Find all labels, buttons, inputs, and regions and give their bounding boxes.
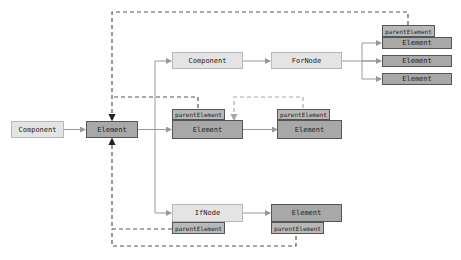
tab-label: parentElement [385,28,432,35]
element-grandchild-node: Element [277,120,342,139]
ifnode-parent-tab: parentElement [172,222,225,234]
node-label: Element [402,39,432,47]
component-root-node: Component [11,121,64,138]
fornode-node: ForNode [271,52,342,69]
node-label: Element [402,57,432,65]
component-child-node: Component [172,52,243,69]
if-element-node: Element [271,204,342,222]
for-element-3-node: Element [382,73,452,85]
node-label: Element [295,126,325,134]
element-grandchild-parent-tab: parentElement [277,109,330,120]
tab-label: parentElement [175,225,222,232]
for-element-1-node: Element [382,37,452,49]
element-child-parent-tab: parentElement [172,109,225,120]
node-label: Element [402,75,432,83]
for-element-1-parent-tab: parentElement [382,25,435,37]
for-element-2-node: Element [382,55,452,67]
node-label: Element [193,126,223,134]
node-label: Component [19,126,57,134]
if-element-parent-tab: parentElement [271,222,324,234]
node-label: IfNode [195,209,220,217]
ifnode-node: IfNode [172,204,243,222]
node-label: Element [292,209,322,217]
node-label: Element [97,126,127,134]
tab-label: parentElement [274,225,321,232]
element-root-node: Element [86,121,138,138]
node-label: Component [189,57,227,65]
tab-label: parentElement [280,111,327,118]
node-label: ForNode [292,57,322,65]
element-child-node: Element [172,120,243,139]
tab-label: parentElement [175,111,222,118]
